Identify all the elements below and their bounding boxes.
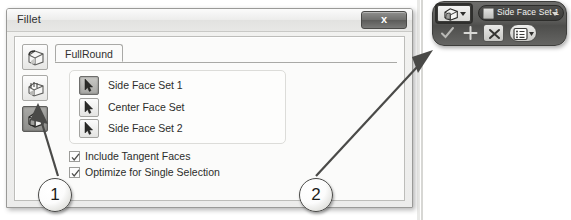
fillet-type-rail bbox=[22, 44, 50, 137]
check-icon bbox=[70, 152, 81, 163]
face-set-group: Side Face Set 1 Center Face Set bbox=[69, 70, 286, 144]
callout-label: 1 bbox=[38, 178, 72, 212]
list-item-label: Center Face Set bbox=[108, 101, 184, 113]
active-face-set-label: Side Face Set 1 bbox=[497, 7, 559, 17]
cursor-arrow-icon bbox=[84, 101, 96, 115]
dialog-titlebar[interactable]: Fillet x bbox=[7, 9, 412, 32]
full-round-fillet-icon bbox=[443, 7, 461, 22]
dialog-title: Fillet bbox=[17, 13, 41, 25]
dialog-panel: FullRound Side Face Set 1 bbox=[14, 36, 405, 201]
fillet-mode-dropdown[interactable] bbox=[437, 5, 471, 22]
checkbox-box[interactable] bbox=[69, 151, 80, 162]
options-list-button[interactable] bbox=[509, 24, 537, 42]
plus-icon bbox=[460, 24, 481, 42]
list-item-label: Side Face Set 1 bbox=[108, 79, 183, 91]
full-round-fillet-icon bbox=[26, 110, 46, 130]
cursor-arrow-icon bbox=[84, 79, 96, 93]
select-center-face-set-button[interactable] bbox=[79, 98, 99, 117]
add-plus-button[interactable] bbox=[460, 24, 481, 42]
active-face-set-pill[interactable]: Side Face Set 1 bbox=[478, 5, 564, 21]
screenshot-root: Fillet x bbox=[0, 0, 571, 220]
edge-fillet-icon bbox=[26, 48, 46, 68]
close-icon[interactable]: x bbox=[361, 11, 407, 29]
select-side-face-set-1-button[interactable] bbox=[79, 76, 99, 95]
callout-1: 1 bbox=[38, 178, 72, 212]
chevron-down-icon bbox=[460, 12, 466, 16]
checkbox-label: Include Tangent Faces bbox=[85, 150, 190, 162]
list-item-label: Side Face Set 2 bbox=[108, 122, 183, 134]
checkbox-box[interactable] bbox=[69, 167, 80, 178]
select-side-face-set-2-button[interactable] bbox=[79, 119, 99, 138]
checkbox-label: Optimize for Single Selection bbox=[85, 166, 220, 178]
sidebar-item-face-fillet[interactable] bbox=[22, 75, 48, 101]
chevron-down-icon bbox=[552, 12, 558, 16]
accept-check-button[interactable] bbox=[437, 24, 458, 42]
face-fillet-icon bbox=[26, 79, 46, 99]
face-set-icon bbox=[483, 8, 494, 19]
tab-strip: FullRound bbox=[55, 44, 397, 63]
app-window-edge bbox=[417, 0, 420, 220]
mini-toolbar: Side Face Set 1 bbox=[432, 1, 567, 46]
check-icon bbox=[437, 24, 458, 42]
tab-fullround[interactable]: FullRound bbox=[55, 44, 123, 62]
cancel-x-button[interactable] bbox=[483, 24, 504, 42]
sidebar-item-edge-fillet[interactable] bbox=[22, 44, 48, 70]
callout-2: 2 bbox=[299, 178, 333, 212]
app-window-edge-shadow bbox=[421, 0, 423, 220]
dialog-body: Side Face Set 1 Center Face Set bbox=[55, 62, 397, 195]
close-icon bbox=[484, 25, 505, 43]
callout-label: 2 bbox=[299, 178, 333, 212]
list-icon bbox=[510, 25, 538, 43]
sidebar-item-full-round-fillet[interactable] bbox=[22, 106, 48, 132]
cursor-arrow-icon bbox=[84, 122, 96, 136]
